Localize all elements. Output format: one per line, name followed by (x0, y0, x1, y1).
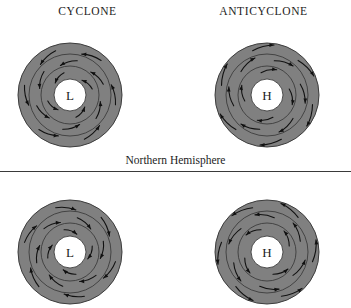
system-southern-cyclone: L (18, 200, 122, 304)
column-title-anticyclone: ANTICYCLONE (176, 5, 351, 17)
pressure-center-letter: L (66, 245, 74, 260)
pressure-center-letter: H (262, 88, 271, 103)
system-southern-anticyclone: H (215, 200, 319, 304)
cyclone-anticyclone-diagram: CYCLONE ANTICYCLONE L H Northern Hemisph… (0, 0, 351, 308)
circulation-svg: L (18, 43, 122, 147)
pressure-center-letter: H (262, 245, 271, 260)
circulation-svg: L (18, 200, 122, 304)
pressure-center-letter: L (66, 88, 74, 103)
circulation-svg: H (215, 43, 319, 147)
column-title-cyclone: CYCLONE (0, 5, 175, 17)
hemisphere-divider (0, 171, 351, 172)
system-northern-anticyclone: H (215, 43, 319, 147)
hemisphere-label-northern: Northern Hemisphere (0, 154, 351, 166)
system-northern-cyclone: L (18, 43, 122, 147)
circulation-svg: H (215, 200, 319, 304)
